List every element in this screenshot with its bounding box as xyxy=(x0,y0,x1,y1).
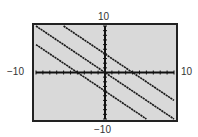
y-min-label: −10 xyxy=(94,125,111,135)
y-max-label: 10 xyxy=(98,12,109,22)
x-max-label: 10 xyxy=(181,67,192,77)
x-min-label: −10 xyxy=(7,67,24,77)
